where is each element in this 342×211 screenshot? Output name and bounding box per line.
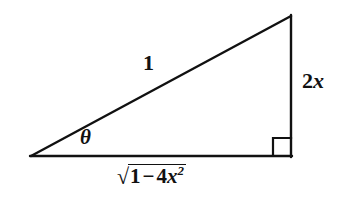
radicand-operator: − <box>141 164 157 188</box>
triangle-figure: 1 2x θ √1−4x2 <box>0 0 342 211</box>
radicand-variable: x <box>167 164 178 188</box>
radicand-first-term: 1 <box>130 164 141 188</box>
right-angle-marker-icon <box>273 138 291 156</box>
hypotenuse-label: 1 <box>143 52 154 74</box>
radical-sign-icon: √ <box>117 166 129 188</box>
opposite-coefficient: 2 <box>302 68 313 93</box>
adjacent-leg-label: √1−4x2 <box>117 164 186 187</box>
radicand-group: 1−4x2 <box>128 164 186 187</box>
hypotenuse-line <box>31 16 291 156</box>
opposite-variable: x <box>313 68 324 93</box>
opposite-leg-label: 2x <box>302 70 324 92</box>
angle-theta-label: θ <box>80 127 91 148</box>
radicand-exponent: 2 <box>178 163 185 178</box>
radicand-coefficient: 4 <box>157 164 168 188</box>
